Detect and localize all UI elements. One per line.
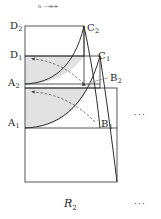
region-label-sub: 2 (72, 204, 76, 212)
vertex-label-A1: A1 (8, 118, 19, 128)
vertex-label-D2: D2 (10, 21, 22, 31)
vertex-label-C2-base: C (87, 22, 95, 33)
vertex-label-B2-base: B (110, 72, 117, 83)
vertex-label-D1-base: D (10, 49, 18, 60)
vertex-label-C2: C2 (87, 23, 99, 33)
vertex-label-B1-sub: 1 (109, 123, 113, 131)
vertex-label-A1-base: A (8, 117, 15, 128)
vertex-label-C1-base: C (98, 50, 106, 61)
vertex-label-B2-sub: 2 (118, 77, 122, 85)
vertex-label-A2: A2 (8, 78, 19, 88)
vertex-label-C1-sub: 1 (106, 55, 110, 63)
vertex-label-B1: B1 (101, 119, 113, 129)
vertex-label-C1: C1 (98, 51, 110, 61)
vertex-label-B2: B2 (110, 73, 122, 83)
figure-container: n → ∞ D2 C2 D1 C1 A2 B2 A1 B1 R2 ··· ··· (0, 0, 161, 219)
region-label-R2: R2 (64, 197, 77, 210)
vertex-label-C2-sub: 2 (95, 27, 99, 35)
limit-arrowhead (56, 5, 59, 7)
limit-annotation-text: n → ∞ (38, 3, 53, 9)
vertex-label-D1-sub: 1 (18, 54, 22, 62)
vertex-label-B1-base: B (101, 118, 108, 129)
vertex-label-A1-sub: 1 (16, 122, 20, 130)
vertex-label-D2-sub: 2 (18, 25, 22, 33)
limit-annotation: n → ∞ (38, 3, 53, 9)
ellipsis-right-middle: ··· (134, 110, 146, 120)
vertex-label-D1: D1 (10, 50, 22, 60)
ellipsis-bottom-right: ··· (134, 199, 146, 209)
vertex-label-D2-base: D (10, 20, 18, 31)
vertex-label-A2-base: A (8, 77, 15, 88)
vertex-label-A2-sub: 2 (16, 82, 20, 90)
